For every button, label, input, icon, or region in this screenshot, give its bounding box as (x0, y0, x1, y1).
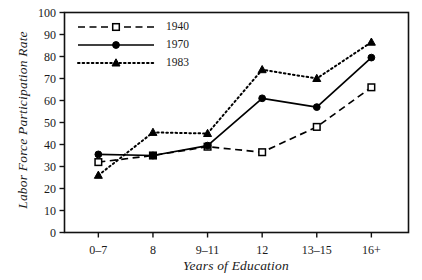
data-point (313, 104, 320, 111)
plot-area (0, 0, 422, 280)
legend-swatch-filled-triangle (74, 54, 158, 72)
legend-label: 1983 (166, 56, 189, 68)
data-point (313, 124, 320, 131)
x-tick-label: 12 (256, 244, 268, 256)
data-point (95, 159, 102, 166)
y-tick-label: 60 (26, 95, 56, 107)
series-1940 (95, 84, 375, 165)
data-point (368, 84, 375, 91)
legend-label: 1940 (166, 20, 189, 32)
series-line (98, 87, 371, 162)
legend-swatch-filled-circle (74, 36, 158, 54)
y-tick-label: 50 (26, 117, 56, 129)
y-tick-label: 30 (26, 161, 56, 173)
data-point (368, 54, 375, 61)
x-tick-label: 9–11 (196, 244, 220, 256)
data-point (95, 151, 102, 158)
data-point (313, 74, 321, 81)
data-point (204, 142, 211, 149)
y-tick-label: 70 (26, 73, 56, 85)
data-point (258, 66, 266, 73)
x-tick-label: 8 (150, 244, 156, 256)
data-point (259, 149, 266, 156)
data-point (367, 38, 375, 45)
y-tick-label: 90 (26, 29, 56, 41)
y-tick-label: 10 (26, 205, 56, 217)
x-tick-label: 16+ (362, 244, 381, 256)
y-tick-label: 20 (26, 183, 56, 195)
data-point (259, 95, 266, 102)
y-tick-label: 100 (26, 7, 56, 19)
series-line (98, 58, 371, 156)
data-point (150, 152, 157, 159)
y-tick-label: 0 (26, 227, 56, 239)
legend-label: 1970 (166, 38, 189, 50)
x-tick-label: 13–15 (302, 244, 332, 256)
y-tick-label: 40 (26, 139, 56, 151)
chart-figure: Labor Force Participation Rate Years of … (0, 0, 422, 280)
data-point (149, 128, 157, 135)
y-tick-label: 80 (26, 51, 56, 63)
x-tick-label: 0–7 (89, 244, 107, 256)
legend-swatch-open-square (74, 18, 158, 36)
